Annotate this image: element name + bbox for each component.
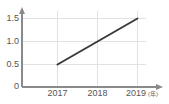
x-tick-label-2017: 2017 xyxy=(47,88,67,98)
x-axis-arrow-icon xyxy=(156,84,163,90)
y-tick-label-0_5: 0.5 xyxy=(6,59,19,69)
x-tick-label-2019: 2019 xyxy=(126,88,146,98)
y-tick-label-1_5: 1.5 xyxy=(6,13,19,23)
x-axis-unit-label: (年) xyxy=(148,90,158,98)
y-tick-label-0: 0 xyxy=(14,81,19,91)
chart-canvas: 1.5 1.0 0.5 0 2017 2018 2019 (年) xyxy=(0,0,169,104)
y-tick-label-1_0: 1.0 xyxy=(6,36,19,46)
x-tick-label-2018: 2018 xyxy=(87,88,107,98)
line-chart: 1.5 1.0 0.5 0 2017 2018 2019 (年) xyxy=(0,0,169,104)
